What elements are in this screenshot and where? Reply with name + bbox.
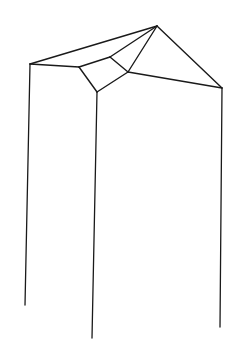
line-drawing-figure xyxy=(0,0,247,353)
figure-canvas xyxy=(0,0,247,353)
canvas-background xyxy=(0,0,247,353)
